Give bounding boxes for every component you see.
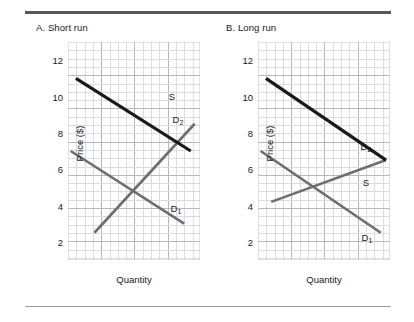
y-tick-12: 12 [242, 55, 253, 66]
curve-S [94, 124, 194, 233]
y-tick-4: 4 [248, 200, 253, 211]
y-tick-10: 10 [242, 91, 253, 102]
y-tick-2: 2 [58, 236, 63, 247]
panel-a-plot-area: Price ($) Quantity 12108642 S D2 D1 [68, 42, 200, 260]
figure-bottom-rule [25, 306, 391, 307]
panel-b-demand1-label: D1 [362, 232, 373, 245]
panel-b-title: B. Long run [226, 22, 276, 33]
y-tick-6: 6 [248, 164, 253, 175]
economics-figure: A. Short run Price ($) Quantity 12108642… [0, 0, 414, 322]
panel-a-x-axis-label: Quantity [68, 274, 200, 285]
panel-long-run: B. Long run Price ($) Quantity 12108642 … [212, 20, 402, 305]
panel-b-x-axis-label: Quantity [258, 274, 390, 285]
panel-a-y-axis-label: Price ($) [74, 109, 85, 179]
figure-top-rule [25, 11, 391, 14]
panel-b-y-axis-label: Price ($) [264, 109, 275, 179]
y-tick-2: 2 [248, 236, 253, 247]
y-tick-4: 4 [58, 200, 63, 211]
panel-short-run: A. Short run Price ($) Quantity 12108642… [22, 20, 212, 305]
panel-b-supply-label: S [363, 177, 369, 188]
panel-a-title: A. Short run [36, 22, 88, 33]
panel-a-supply-label: S [169, 91, 175, 102]
panel-a-curves [68, 42, 200, 260]
y-tick-6: 6 [58, 164, 63, 175]
curve-D1 [261, 151, 381, 233]
y-tick-12: 12 [52, 55, 63, 66]
panel-a-demand1-label: D1 [171, 203, 182, 216]
panel-b-plot-area: Price ($) Quantity 12108642 D2 S D1 [258, 42, 390, 260]
y-tick-8: 8 [58, 127, 63, 138]
panel-a-demand2-label: D2 [173, 114, 184, 127]
panel-b-demand2-label: D2 [361, 141, 372, 154]
curve-D1 [71, 151, 185, 224]
y-tick-8: 8 [248, 127, 253, 138]
y-tick-10: 10 [52, 91, 63, 102]
